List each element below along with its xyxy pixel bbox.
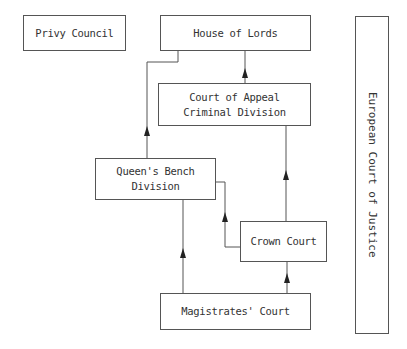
node-label-line1: Queen's Bench [116,164,194,179]
arrow-up-icon [180,248,186,258]
node-european-court-of-justice: European Court of Justice [355,16,389,334]
node-label: European Court of Justice [365,92,380,258]
node-label: Crown Court [250,234,316,249]
node-court-of-appeal: Court of Appeal Criminal Division [158,83,311,126]
node-magistrates-court: Magistrates' Court [160,293,311,330]
node-label-line2: Division [131,179,179,194]
node-label-line2: Criminal Division [183,105,285,120]
node-label: House of Lords [193,26,277,41]
node-label-line1: Court of Appeal [189,90,279,105]
edge-crown-to-qb [216,182,240,247]
node-house-of-lords: House of Lords [160,15,311,51]
arrow-up-icon [284,273,290,283]
arrow-up-icon [222,212,228,222]
arrow-up-icon [283,170,289,180]
node-label: Privy Council [35,26,113,41]
node-queens-bench-division: Queen's Bench Division [95,158,216,200]
arrow-up-icon [242,68,248,78]
arrow-up-icon [144,126,150,136]
node-privy-council: Privy Council [23,15,126,51]
node-crown-court: Crown Court [240,221,327,262]
node-label: Magistrates' Court [181,304,289,319]
